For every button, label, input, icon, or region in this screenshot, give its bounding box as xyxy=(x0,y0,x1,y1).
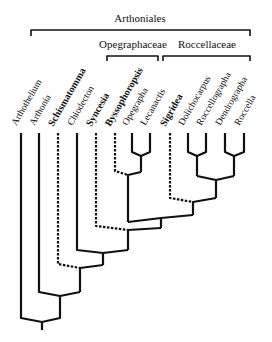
family-bracket-opegraphaceae xyxy=(107,56,158,61)
order-bracket xyxy=(31,30,250,36)
branch-chiodecton xyxy=(77,133,128,265)
branch-byssophoropsis xyxy=(115,133,128,175)
order-label: Arthoniales xyxy=(114,12,165,24)
branch-dolichocarpus-roccellographa xyxy=(188,133,206,176)
branch-arthonia xyxy=(39,133,80,316)
branch-sigridea xyxy=(170,133,193,202)
branch-dendrographa-roccella xyxy=(225,133,244,176)
branch-opegrapha-lecanactis xyxy=(132,133,150,172)
family-bracket-roccellaceae xyxy=(163,56,250,61)
branch-syncesia xyxy=(96,133,128,230)
family-label-roccellaceae: Roccellaceae xyxy=(178,38,236,50)
phylogenetic-tree xyxy=(0,0,272,342)
family-label-opegraphaceae: Opegraphaceae xyxy=(99,38,167,50)
branch-arthothelium xyxy=(21,133,60,330)
